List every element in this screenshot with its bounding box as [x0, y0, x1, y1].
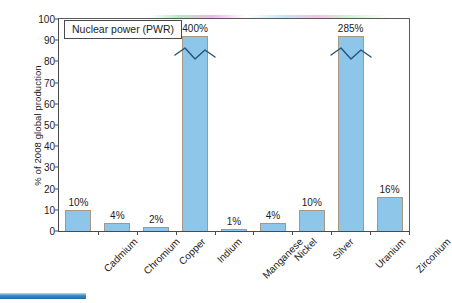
- bar-slot: 10%: [292, 19, 331, 231]
- x-tick-mark: [292, 231, 293, 235]
- bar-copper[interactable]: [143, 227, 169, 231]
- y-tick-label: 60: [44, 98, 55, 109]
- bars-layer: 10%4%2%400%1%4%10%285%16%: [59, 19, 409, 231]
- y-tick-label: 100: [38, 14, 55, 25]
- bar-value-label: 10%: [302, 197, 322, 208]
- bar-chromium[interactable]: [104, 223, 130, 231]
- y-tick-mark: [55, 146, 59, 147]
- bar-value-label: 4%: [110, 210, 124, 221]
- bar-nickel[interactable]: [260, 223, 286, 231]
- x-tick-mark: [98, 231, 99, 235]
- y-tick-label: 70: [44, 77, 55, 88]
- x-axis-label-copper: Copper: [177, 236, 208, 267]
- x-axis-label-zirconium: Zirconium: [413, 236, 452, 275]
- x-tick-mark: [253, 231, 254, 235]
- x-axis-label-indium: Indium: [215, 236, 244, 265]
- bar-value-label: 16%: [380, 184, 400, 195]
- x-axis-label-chromium: Chromium: [142, 236, 182, 276]
- bar-slot: 2%: [137, 19, 176, 231]
- y-axis-title: % of 2008 global production: [32, 26, 43, 226]
- x-tick-mark: [215, 231, 216, 235]
- y-tick-mark: [55, 167, 59, 168]
- y-tick-label: 40: [44, 141, 55, 152]
- x-tick-mark: [331, 231, 332, 235]
- bar-value-label: 4%: [266, 210, 280, 221]
- y-tick-mark: [55, 231, 59, 232]
- bar-slot: 1%: [215, 19, 254, 231]
- x-axis-label-cadmium: Cadmium: [102, 236, 140, 274]
- x-axis-label-silver: Silver: [330, 236, 355, 261]
- bar-slot: 10%: [59, 19, 98, 231]
- bar-value-label: 2%: [149, 214, 163, 225]
- y-tick-mark: [55, 40, 59, 41]
- bar-slot: 400%: [176, 19, 215, 231]
- x-tick-mark: [409, 231, 410, 235]
- plot-area: 10%4%2%400%1%4%10%285%16% 01020304050607…: [58, 18, 410, 232]
- y-tick-label: 10: [44, 204, 55, 215]
- bar-slot: 4%: [253, 19, 292, 231]
- bar-value-label: 400%: [182, 23, 208, 34]
- bottom-accent-bar: [0, 293, 86, 299]
- y-tick-mark: [55, 19, 59, 20]
- x-tick-mark: [176, 231, 177, 235]
- y-tick-mark: [55, 61, 59, 62]
- x-tick-mark: [137, 231, 138, 235]
- bar-value-label: 285%: [338, 23, 364, 34]
- x-tick-mark: [370, 231, 371, 235]
- bar-uranium[interactable]: [338, 36, 364, 231]
- bar-slot: 285%: [331, 19, 370, 231]
- bar-slot: 4%: [98, 19, 137, 231]
- y-tick-mark: [55, 125, 59, 126]
- legend-nuclear-power: Nuclear power (PWR): [64, 20, 182, 39]
- x-axis-label-uranium: Uranium: [373, 236, 408, 271]
- y-tick-label: 80: [44, 56, 55, 67]
- y-tick-label: 30: [44, 162, 55, 173]
- bar-value-label: 1%: [227, 216, 241, 227]
- bar-indium[interactable]: [182, 36, 208, 231]
- y-tick-label: 90: [44, 35, 55, 46]
- bar-cadmium[interactable]: [65, 210, 91, 231]
- bar-silver[interactable]: [299, 210, 325, 231]
- bar-zirconium[interactable]: [377, 197, 403, 231]
- bar-value-label: 10%: [68, 197, 88, 208]
- y-tick-mark: [55, 188, 59, 189]
- y-tick-label: 50: [44, 120, 55, 131]
- y-tick-mark: [55, 82, 59, 83]
- y-tick-mark: [55, 209, 59, 210]
- y-tick-label: 20: [44, 183, 55, 194]
- y-tick-mark: [55, 103, 59, 104]
- bar-slot: 16%: [370, 19, 409, 231]
- bar-manganese[interactable]: [221, 229, 247, 231]
